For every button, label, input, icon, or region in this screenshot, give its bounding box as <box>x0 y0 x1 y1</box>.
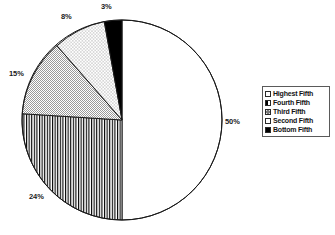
legend-swatch-icon-bottom-fifth <box>265 127 271 133</box>
pie-slice-fourth-fifth <box>22 114 122 220</box>
legend-swatch-icon-third-fifth <box>265 109 271 115</box>
legend-item-third-fifth: Third Fifth <box>265 107 327 116</box>
legend-label-second-fifth: Second Fifth <box>273 116 313 125</box>
data-label-third-fifth: 15% <box>9 70 24 78</box>
legend-swatch-icon-highest-fifth <box>265 91 271 97</box>
legend-swatch-icon-second-fifth <box>265 118 271 124</box>
pie-slice-highest-fifth <box>122 20 222 220</box>
data-label-bottom-fifth: 3% <box>101 3 112 11</box>
legend-item-fourth-fifth: Fourth Fifth <box>265 98 327 107</box>
legend-label-highest-fifth: Highest Fifth <box>273 89 313 98</box>
pie-chart-figure: 50% 24% 15% 8% 3% Highest Fifth Fourth F… <box>0 0 335 235</box>
legend-item-bottom-fifth: Bottom Fifth <box>265 125 327 134</box>
chart-legend: Highest Fifth Fourth Fifth Third Fifth S… <box>262 86 330 137</box>
legend-label-fourth-fifth: Fourth Fifth <box>273 98 310 107</box>
legend-item-highest-fifth: Highest Fifth <box>265 89 327 98</box>
legend-item-second-fifth: Second Fifth <box>265 116 327 125</box>
legend-swatch-icon-fourth-fifth <box>265 100 271 106</box>
legend-label-third-fifth: Third Fifth <box>273 107 305 116</box>
data-label-highest-fifth: 50% <box>225 118 240 126</box>
data-label-fourth-fifth: 24% <box>29 193 44 201</box>
data-label-second-fifth: 8% <box>61 13 72 21</box>
legend-label-bottom-fifth: Bottom Fifth <box>273 125 312 134</box>
